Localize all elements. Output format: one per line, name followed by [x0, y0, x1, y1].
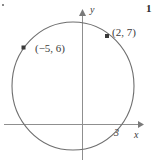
problem-number: 1	[146, 3, 152, 14]
point-label-right: (2, 7)	[112, 27, 136, 38]
point-label-left: (−5, 6)	[35, 43, 65, 54]
point-marker-left	[22, 46, 26, 50]
x-axis-arrowhead	[138, 121, 144, 128]
y-axis-label: y	[90, 5, 94, 15]
x-axis-label: x	[134, 130, 138, 140]
y-axis-arrowhead	[79, 9, 86, 16]
x-intercept-tick-label: 3	[114, 128, 119, 138]
circle-graph-figure: (−5, 6) (2, 7) y x 3 1	[0, 0, 157, 164]
point-marker-right	[105, 34, 109, 38]
